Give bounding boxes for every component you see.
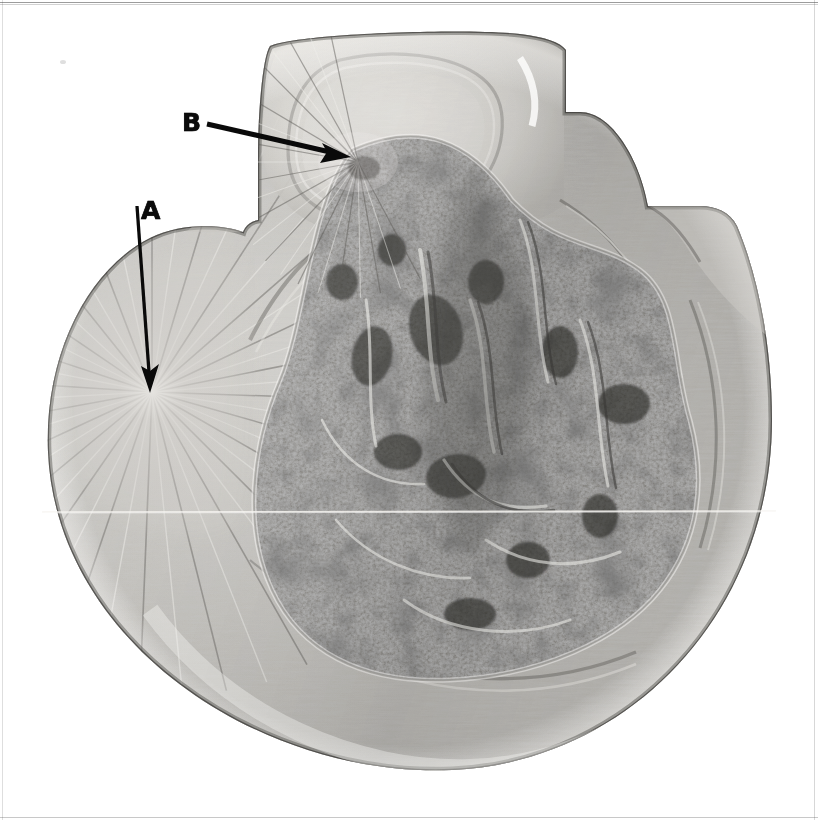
annotation-layer: A B (0, 0, 818, 820)
fractograph-figure: A B (0, 0, 818, 820)
annotation-label-a: A (141, 198, 160, 223)
annotation-label-b: B (182, 110, 201, 135)
